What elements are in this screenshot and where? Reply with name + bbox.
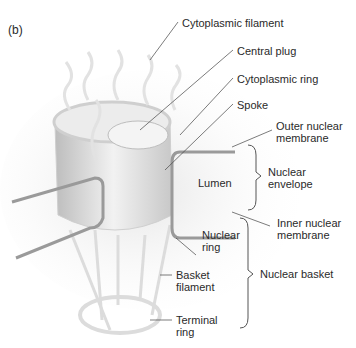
label-outer-membrane-2: membrane [276, 132, 329, 144]
label-inner-membrane-2: membrane [277, 229, 330, 241]
central-plug [108, 121, 168, 149]
label-basket-filament-1: Basket [176, 269, 210, 281]
label-nuclear-ring-1: Nuclear [202, 229, 240, 241]
label-outer-membrane-1: Outer nuclear [276, 120, 343, 132]
label-central-plug: Central plug [237, 45, 296, 57]
label-envelope-1: Nuclear [268, 166, 306, 178]
label-spoke: Spoke [237, 99, 268, 111]
label-inner-membrane-1: Inner nuclear [277, 217, 341, 229]
label-terminal-ring-1: Terminal [176, 314, 218, 326]
label-envelope-2: envelope [268, 178, 313, 190]
panel-label: (b) [8, 24, 23, 36]
label-nuclear-ring-2: ring [202, 241, 220, 253]
label-nuclear-basket: Nuclear basket [260, 268, 333, 280]
label-lumen: Lumen [198, 177, 232, 189]
label-cytoplasmic-ring: Cytoplasmic ring [237, 73, 318, 85]
label-basket-filament-2: filament [176, 281, 215, 293]
label-terminal-ring-2: ring [176, 326, 194, 338]
label-cytoplasmic-filament: Cytoplasmic filament [182, 17, 283, 29]
